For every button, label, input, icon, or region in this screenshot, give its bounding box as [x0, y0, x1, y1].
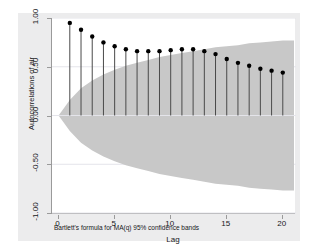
acf-plot-svg — [52, 18, 296, 214]
y-tick-label: 1.00 — [31, 2, 40, 32]
y-tick-mark — [47, 213, 51, 214]
y-tick-label: -1.00 — [31, 197, 40, 227]
chart-footnote: Bartlett's formula for MA(q) 95% confide… — [54, 224, 199, 231]
y-tick-mark — [47, 18, 51, 19]
x-tick-label: 20 — [272, 219, 292, 228]
x-tick-mark — [114, 215, 115, 219]
y-axis-title: Autocorrelations of air — [27, 19, 36, 169]
x-tick-mark — [58, 215, 59, 219]
x-tick-mark — [170, 215, 171, 219]
x-tick-label: 15 — [216, 219, 236, 228]
y-tick-label: 0.50 — [31, 50, 40, 80]
y-tick-mark — [47, 164, 51, 165]
plot-area — [51, 18, 295, 214]
y-tick-label: 0.00 — [31, 99, 40, 129]
x-axis-title: Lag — [51, 235, 295, 244]
y-tick-mark — [47, 67, 51, 68]
graph-region: Autocorrelations of air -1.00-0.500.000.… — [18, 13, 300, 241]
x-tick-mark — [282, 215, 283, 219]
chart-figure: Autocorrelations of air -1.00-0.500.000.… — [0, 0, 315, 250]
x-tick-mark — [226, 215, 227, 219]
y-tick-mark — [47, 116, 51, 117]
y-tick-label: -0.50 — [31, 148, 40, 178]
